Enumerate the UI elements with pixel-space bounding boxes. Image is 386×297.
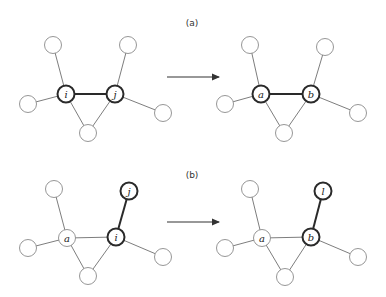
node-circle bbox=[217, 96, 234, 113]
node-label: i bbox=[114, 232, 117, 243]
graph-node bbox=[242, 181, 259, 198]
panels: (a)ijab(b)jailab bbox=[20, 18, 367, 286]
node-circle bbox=[242, 37, 259, 54]
node-label: b bbox=[308, 232, 314, 243]
node-i: i bbox=[58, 86, 75, 103]
graph-node bbox=[155, 249, 172, 266]
graph-node bbox=[20, 240, 37, 257]
node-circle bbox=[80, 125, 97, 142]
graph-before: jai bbox=[20, 181, 172, 285]
node-circle bbox=[46, 181, 63, 198]
panel-a: (a)ijab bbox=[20, 18, 367, 142]
node-circle bbox=[80, 268, 97, 285]
node-label: a bbox=[258, 89, 264, 100]
graph-node bbox=[276, 125, 293, 142]
panel-label: (a) bbox=[186, 18, 199, 28]
graph-node bbox=[242, 37, 259, 54]
node-circle bbox=[317, 39, 334, 56]
graph-node bbox=[350, 249, 367, 266]
node-circle bbox=[20, 96, 37, 113]
graph-node bbox=[20, 96, 37, 113]
node-label: a bbox=[259, 233, 265, 244]
graph-after: lab bbox=[217, 181, 367, 286]
graph-node bbox=[46, 181, 63, 198]
graph-node bbox=[217, 96, 234, 113]
node-circle bbox=[20, 240, 37, 257]
node-b: b bbox=[303, 86, 320, 103]
node-a: a bbox=[254, 230, 271, 247]
graph-node bbox=[217, 240, 234, 257]
node-circle bbox=[120, 37, 137, 54]
node-label: l bbox=[321, 186, 324, 197]
node-j: j bbox=[121, 183, 138, 200]
node-j: j bbox=[107, 86, 124, 103]
graph-node bbox=[350, 105, 367, 122]
node-circle bbox=[276, 125, 293, 142]
node-l: l bbox=[315, 183, 332, 200]
graph-node bbox=[45, 37, 62, 54]
graph-contraction-figure: (a)ijab(b)jailab bbox=[0, 0, 386, 297]
panel-b: (b)jailab bbox=[20, 170, 367, 286]
panel-label: (b) bbox=[186, 170, 199, 180]
graph-node bbox=[317, 39, 334, 56]
graph-before: ij bbox=[20, 37, 172, 142]
node-circle bbox=[277, 269, 294, 286]
node-circle bbox=[155, 249, 172, 266]
node-i: i bbox=[108, 229, 125, 246]
node-circle bbox=[155, 105, 172, 122]
graph-node bbox=[277, 269, 294, 286]
node-circle bbox=[217, 240, 234, 257]
node-a: a bbox=[59, 230, 76, 247]
node-a: a bbox=[253, 86, 270, 103]
graph-node bbox=[80, 268, 97, 285]
graph-node bbox=[120, 37, 137, 54]
node-circle bbox=[45, 37, 62, 54]
graph-after: ab bbox=[217, 37, 367, 142]
node-b: b bbox=[303, 229, 320, 246]
graph-node bbox=[80, 125, 97, 142]
node-circle bbox=[242, 181, 259, 198]
graph-node bbox=[155, 105, 172, 122]
node-circle bbox=[350, 249, 367, 266]
node-label: a bbox=[64, 233, 70, 244]
node-label: i bbox=[64, 89, 67, 100]
node-label: b bbox=[308, 89, 314, 100]
node-circle bbox=[350, 105, 367, 122]
